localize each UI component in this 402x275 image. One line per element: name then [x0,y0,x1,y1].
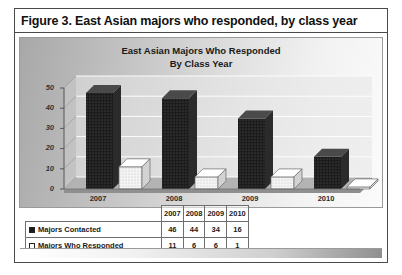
bar-2007-contacted-face [86,85,121,189]
table-corner-cell [26,206,162,222]
x-label-2007: 2007 [76,194,120,203]
figure-container: Figure 3. East Asian majors who responde… [14,8,388,263]
table-row: Majors Contacted 46 44 34 16 [26,222,249,238]
y-tick-20: 20 [36,143,54,152]
x-label-2010: 2010 [304,194,348,203]
bar-2008-responded [195,169,226,189]
legend-item-contacted: Majors Contacted [26,222,162,238]
figure-caption-bar: Figure 3. East Asian majors who responde… [15,9,387,33]
y-tick-40: 40 [36,103,54,112]
y-tick-0: 0 [36,184,54,193]
y-tick-50: 50 [36,83,54,92]
bar-2007-responded [119,159,150,189]
y-tick-30: 30 [36,123,54,132]
table-header-row: 2007 2008 2009 2010 [26,206,249,222]
cell-contacted-2010: 16 [227,222,249,238]
figure-caption: Figure 3. East Asian majors who responde… [21,14,357,28]
table-header-2009: 2009 [205,206,227,222]
data-table: 2007 2008 2009 2010 Majors Contacted 46 … [25,205,249,254]
y-tick-10: 10 [36,164,54,173]
bar-2009-contacted [238,110,273,189]
legend-label-contacted: Majors Contacted [38,225,101,234]
bar-2009-responded [271,169,302,189]
x-label-2008: 2008 [152,194,196,203]
cell-contacted-2008: 44 [183,222,205,238]
chart-panel: East Asian Majors Who Responded By Class… [19,37,383,208]
table-header-2008: 2008 [183,206,205,222]
plot-area: 50 40 30 20 10 0 2007 2008 2009 2010 [20,38,382,207]
table-header-2010: 2010 [227,206,249,222]
table-header-2007: 2007 [162,206,184,222]
x-label-2009: 2009 [228,194,272,203]
cell-contacted-2007: 46 [162,222,184,238]
bar-2010-contacted [314,149,349,189]
bar-chart-svg [20,38,383,207]
bottom-gradient-bar [20,248,382,258]
legend-swatch-filled-icon [29,227,35,233]
cell-contacted-2009: 34 [205,222,227,238]
bar-2008-contacted [162,90,197,189]
